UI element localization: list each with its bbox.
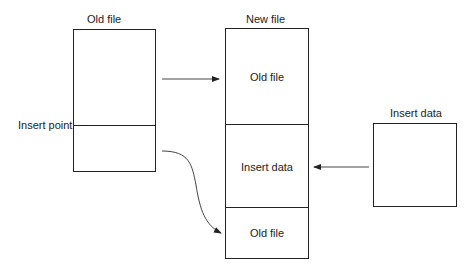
arrow-old-to-new-bottom-curved [162,151,221,233]
arrows-layer [0,0,470,269]
